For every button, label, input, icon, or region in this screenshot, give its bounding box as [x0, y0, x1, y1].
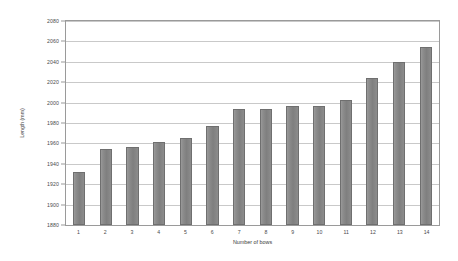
bar-slot: [252, 21, 279, 225]
bar: [366, 78, 378, 225]
bar: [340, 100, 352, 225]
bar: [153, 142, 165, 225]
bar: [286, 106, 298, 225]
chart-screenshot: Length (mm) 1880190019201940196019802000…: [0, 0, 458, 261]
bar: [313, 106, 325, 225]
x-axis-tick-label: 11: [333, 226, 360, 238]
bar-slot: [279, 21, 306, 225]
x-axis-tick-label: 2: [92, 226, 119, 238]
plot-area: [65, 20, 440, 226]
x-axis-title: Number of bows: [65, 239, 440, 245]
bar: [420, 47, 432, 226]
x-axis-tick-label: 8: [252, 226, 279, 238]
bar-slot: [359, 21, 386, 225]
y-axis-tick-label: 2080: [47, 18, 59, 24]
y-axis-tick-label: 2040: [47, 59, 59, 65]
bar-slot: [66, 21, 93, 225]
x-axis-tick-label: 4: [145, 226, 172, 238]
x-axis-tick-label: 1: [65, 226, 92, 238]
y-axis-tick-label: 1980: [47, 120, 59, 126]
bar: [126, 147, 138, 225]
bar-slot: [332, 21, 359, 225]
bar-slot: [173, 21, 200, 225]
y-axis-tick-label: 2060: [47, 38, 59, 44]
x-axis-tick-label: 3: [119, 226, 146, 238]
y-axis-tick-label: 2000: [47, 100, 59, 106]
bar-slot: [146, 21, 173, 225]
y-axis-tick-label: 1940: [47, 161, 59, 167]
bar-slot: [412, 21, 439, 225]
bar: [260, 109, 272, 225]
x-axis-tick-label: 12: [360, 226, 387, 238]
bar-slot: [226, 21, 253, 225]
bar: [233, 109, 245, 225]
y-axis-tick-label: 1960: [47, 140, 59, 146]
y-axis-tick-label: 1900: [47, 202, 59, 208]
x-axis-tick-label: 14: [413, 226, 440, 238]
bar-slot: [119, 21, 146, 225]
bar-slot: [93, 21, 120, 225]
bar-slot: [199, 21, 226, 225]
y-axis-tick-label: 1880: [47, 222, 59, 228]
x-axis-tick-label: 5: [172, 226, 199, 238]
bar: [180, 138, 192, 225]
x-axis-tick-label: 7: [226, 226, 253, 238]
x-axis-tick-label: 6: [199, 226, 226, 238]
bar: [73, 172, 85, 225]
bar: [100, 149, 112, 226]
x-axis-tick-label: 9: [279, 226, 306, 238]
x-axis-tick-label: 10: [306, 226, 333, 238]
bar: [206, 126, 218, 225]
y-axis-tick-label: 1920: [47, 181, 59, 187]
bar-slot: [306, 21, 333, 225]
y-axis-tick-labels: 1880190019201940196019802000202020402060…: [8, 20, 63, 226]
x-axis-tick-labels: 1234567891011121314: [65, 226, 440, 238]
bar-slot: [386, 21, 413, 225]
chart-frame: Length (mm) 1880190019201940196019802000…: [8, 6, 450, 255]
bar: [393, 62, 405, 225]
bar-series: [66, 21, 439, 225]
x-axis-tick-label: 13: [386, 226, 413, 238]
y-axis-tick-label: 2020: [47, 79, 59, 85]
